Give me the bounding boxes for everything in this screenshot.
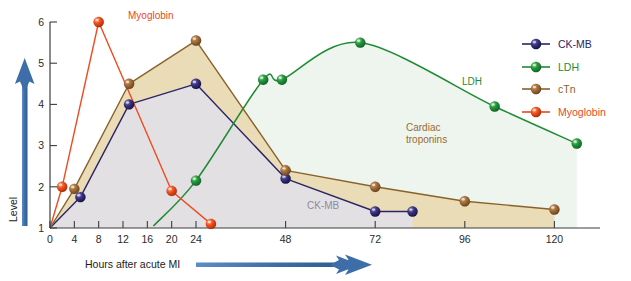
x-tick-label: 0	[47, 233, 53, 245]
legend-label: CK-MB	[558, 38, 592, 50]
x-tick-label: 8	[96, 233, 102, 245]
data-point-ckmb	[370, 206, 380, 216]
data-point-ctn	[191, 35, 201, 45]
marker-highlight	[282, 175, 285, 177]
marker-highlight	[409, 208, 412, 210]
y-tick-label: 5	[38, 57, 44, 69]
data-point-ldh	[489, 101, 499, 111]
legend-item-ckmb[interactable]: CK-MB	[521, 33, 606, 56]
marker-highlight	[282, 167, 285, 169]
legend-marker-icon	[521, 105, 551, 119]
marker-highlight	[208, 221, 211, 223]
x-tick-label: 24	[190, 233, 202, 245]
marker-highlight	[491, 103, 494, 105]
marker-highlight	[462, 198, 465, 200]
x-tick-label: 48	[280, 233, 292, 245]
annotation-ck-mb: CK-MB	[307, 200, 340, 211]
legend-label: LDH	[558, 61, 579, 73]
x-axis-label: Hours after acute MI	[85, 258, 180, 270]
data-point-ckmb	[124, 99, 134, 109]
x-tick-label: 20	[166, 233, 178, 245]
data-point-ckmb	[191, 79, 201, 89]
legend-marker-icon	[521, 82, 551, 96]
marker-highlight	[95, 19, 98, 21]
cardiac-marker-chart: 12345604812162024487296120 MyoglobinLDHC…	[0, 0, 631, 281]
x-tick-label: 120	[546, 233, 564, 245]
data-point-ctn	[370, 182, 380, 192]
y-tick-label: 2	[38, 181, 44, 193]
x-tick-label: 12	[117, 233, 129, 245]
data-point-ctn	[460, 196, 470, 206]
legend-marker-icon	[521, 60, 551, 74]
data-point-ldh	[572, 138, 582, 148]
legend-marker-icon	[521, 37, 551, 51]
y-tick-label: 1	[38, 222, 44, 234]
annotation-ldh: LDH	[462, 76, 482, 87]
data-point-ldh	[277, 74, 287, 84]
data-point-ckmb	[407, 206, 417, 216]
legend-item-myoglobin[interactable]: Myoglobin	[521, 101, 606, 124]
data-point-ldh	[355, 37, 365, 47]
data-point-myoglobin	[57, 182, 67, 192]
legend-label: Myoglobin	[558, 106, 606, 118]
marker-highlight	[372, 184, 375, 186]
marker-highlight	[193, 37, 196, 39]
annotation-myoglobin: Myoglobin	[128, 10, 174, 21]
marker-highlight	[126, 101, 129, 103]
marker-highlight	[357, 40, 360, 42]
marker-highlight	[574, 140, 577, 142]
legend: CK-MBLDHcTnMyoglobin	[521, 33, 606, 123]
marker-highlight	[193, 81, 196, 83]
data-point-ctn	[280, 165, 290, 175]
y-tick-label: 4	[38, 98, 44, 110]
legend-label: cTn	[558, 83, 576, 95]
y-tick-label: 3	[38, 139, 44, 151]
marker-highlight	[168, 188, 171, 190]
marker-highlight	[551, 206, 554, 208]
marker-highlight	[71, 186, 74, 188]
x-tick-label: 96	[459, 233, 471, 245]
y-tick-label: 6	[38, 16, 44, 28]
marker-highlight	[193, 178, 196, 180]
legend-item-ctn[interactable]: cTn	[521, 78, 606, 101]
data-point-ctn	[69, 184, 79, 194]
data-point-ldh	[258, 74, 268, 84]
data-point-myoglobin	[166, 186, 176, 196]
marker-highlight	[126, 81, 129, 83]
annotation-troponins: troponins	[406, 134, 447, 145]
marker-highlight	[279, 77, 282, 79]
data-point-ctn	[549, 204, 559, 214]
data-point-ldh	[191, 175, 201, 185]
x-tick-label: 16	[141, 233, 153, 245]
data-point-ctn	[124, 79, 134, 89]
marker-highlight	[59, 184, 62, 186]
marker-highlight	[260, 77, 263, 79]
legend-item-ldh[interactable]: LDH	[521, 56, 606, 79]
annotation-cardiac: Cardiac	[406, 122, 440, 133]
x-tick-label: 4	[71, 233, 77, 245]
data-point-myoglobin	[206, 219, 216, 229]
marker-highlight	[372, 208, 375, 210]
x-tick-label: 72	[369, 233, 381, 245]
marker-highlight	[77, 194, 80, 196]
y-axis-label: Level	[7, 197, 19, 222]
data-point-myoglobin	[93, 17, 103, 27]
